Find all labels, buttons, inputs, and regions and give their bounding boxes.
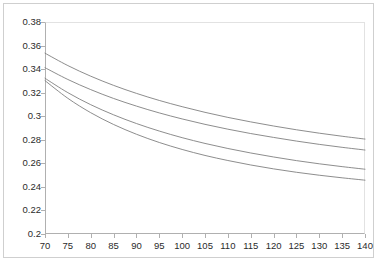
x-tick-label: 95 [154, 240, 165, 251]
x-tick-mark [68, 234, 69, 238]
x-tick-mark [205, 234, 206, 238]
x-tick-label: 115 [243, 240, 258, 251]
x-tick-mark [159, 234, 160, 238]
x-tick-mark [114, 234, 115, 238]
x-tick-label: 130 [311, 240, 327, 251]
x-tick-mark [136, 234, 137, 238]
chart-figure: 0.380.360.340.320.30.280.260.240.220.2 7… [0, 0, 381, 270]
x-tick-label: 135 [334, 240, 350, 251]
x-tick-mark [319, 234, 320, 238]
x-tick-label: 80 [85, 240, 96, 251]
x-tick-mark [365, 234, 366, 238]
x-tick-mark [45, 234, 46, 238]
x-tick-label: 85 [108, 240, 119, 251]
x-tick-label: 105 [197, 240, 213, 251]
x-tick-label: 90 [131, 240, 142, 251]
x-tick-label: 70 [40, 240, 51, 251]
x-tick-mark [342, 234, 343, 238]
x-tick-label: 125 [288, 240, 304, 251]
x-tick-mark [296, 234, 297, 238]
x-tick-mark [91, 234, 92, 238]
x-tick-label: 110 [220, 240, 235, 251]
x-tick-mark [274, 234, 275, 238]
x-tick-label: 140 [357, 240, 373, 251]
x-tick-label: 100 [174, 240, 190, 251]
x-tick-label: 120 [266, 240, 282, 251]
x-axis: 707580859095100105110115120125130135140 [0, 0, 381, 270]
x-tick-mark [251, 234, 252, 238]
x-tick-label: 75 [63, 240, 74, 251]
x-tick-mark [182, 234, 183, 238]
x-tick-mark [228, 234, 229, 238]
